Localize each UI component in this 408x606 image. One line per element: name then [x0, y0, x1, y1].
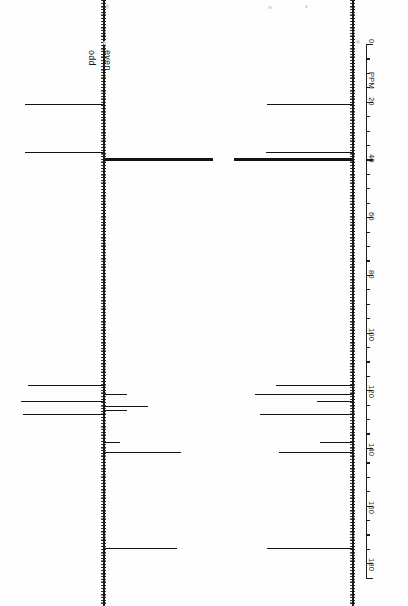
peak — [105, 452, 181, 453]
axis-tick-label: 80 — [367, 270, 376, 279]
axis-tick-minor — [366, 419, 370, 420]
peak — [267, 104, 352, 105]
axis-tick-minor — [366, 116, 370, 117]
axis-unit-label: PPM — [367, 72, 376, 89]
axis-tick-minor — [366, 260, 370, 261]
axis-tick-label: 160 — [367, 501, 376, 514]
peak — [23, 414, 103, 415]
peak — [105, 158, 213, 161]
scan-speckle — [103, 41, 106, 45]
axis-tick-minor — [366, 318, 370, 319]
odd-label: odd — [87, 50, 97, 66]
axis-tick-minor — [366, 477, 370, 478]
even-label: even — [103, 50, 113, 71]
axis-tick-minor — [366, 131, 370, 132]
scan-speckle — [106, 4, 109, 9]
axis-tick-minor — [366, 361, 370, 362]
axis-tick-label: 60 — [367, 212, 376, 221]
peak — [28, 385, 103, 386]
axis-tick-minor — [366, 304, 370, 305]
axis-rail — [366, 44, 367, 578]
peak — [105, 548, 177, 549]
left-baseline — [103, 0, 105, 606]
axis-tick-label: 100 — [367, 328, 376, 341]
axis-tick-label: 20 — [367, 97, 376, 106]
axis-tick-minor — [366, 534, 370, 535]
peak — [267, 548, 352, 549]
axis-tick-minor — [366, 520, 370, 521]
peak — [317, 401, 352, 402]
axis-tick-minor — [366, 433, 370, 434]
axis-tick-label: 140 — [367, 443, 376, 456]
peak — [25, 152, 103, 153]
peak — [255, 394, 352, 395]
right-baseline — [352, 0, 354, 606]
axis-tick-label: 40 — [367, 154, 376, 163]
scan-speckle — [268, 6, 272, 9]
axis-tick-label: 120 — [367, 385, 376, 398]
peak — [279, 452, 352, 453]
peak — [276, 385, 352, 386]
axis-tick-minor — [366, 174, 370, 175]
axis-tick-minor — [366, 347, 370, 348]
peak — [234, 158, 352, 161]
scan-speckle — [356, 40, 360, 44]
axis-tick-minor — [366, 289, 370, 290]
axis-tick-minor — [366, 145, 370, 146]
peak — [320, 442, 352, 443]
axis-tick-minor — [366, 462, 370, 463]
axis-tick-minor — [366, 58, 370, 59]
peak — [105, 394, 127, 395]
scan-speckle — [305, 5, 308, 8]
axis-tick-minor — [366, 549, 370, 550]
peak — [105, 406, 148, 407]
axis-tick-minor — [366, 203, 370, 204]
axis-tick-minor — [366, 376, 370, 377]
axis-tick-major — [366, 44, 373, 45]
ppm-axis: 020406080100120140160180PPM — [366, 0, 408, 606]
peak — [260, 414, 352, 415]
axis-tick-minor — [366, 188, 370, 189]
axis-tick-minor — [366, 246, 370, 247]
right-spectrum — [230, 0, 360, 606]
axis-tick-minor — [366, 232, 370, 233]
axis-tick-minor — [366, 405, 370, 406]
peak — [266, 152, 352, 153]
axis-tick-label: 180 — [367, 558, 376, 571]
figure-canvas: odd even 020406080100120140160180PPM — [0, 0, 408, 606]
peak — [105, 442, 120, 443]
left-spectrum — [0, 0, 230, 606]
peak — [21, 401, 103, 402]
axis-tick-minor — [366, 491, 370, 492]
peak — [105, 410, 127, 411]
peak — [25, 104, 103, 105]
axis-tick-label: 0 — [367, 39, 376, 43]
axis-tick-minor — [366, 578, 370, 579]
